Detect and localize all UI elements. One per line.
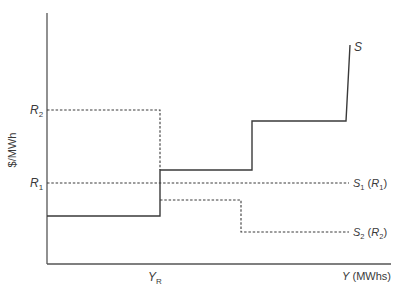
s1-r1-label: S1 (R1) — [353, 177, 387, 192]
r2-dashed-line — [47, 110, 160, 170]
s-curve-label: S — [354, 40, 362, 54]
s2-r2-label: S2 (R2) — [353, 226, 387, 241]
axes — [47, 13, 391, 264]
x-axis-label: Y (MWhs) — [342, 270, 391, 282]
supply-curve-diagram: $/MWh R2 R1 YR Y (MWhs) S S1 (R1) S2 (R2… — [0, 0, 401, 299]
y-axis-label: $/MWh — [6, 133, 18, 168]
s2-r2-dashed-line — [160, 200, 349, 232]
r1-tick-label: R1 — [30, 176, 44, 192]
r2-tick-label: R2 — [30, 103, 44, 119]
yr-tick-label: YR — [148, 270, 162, 286]
supply-curve-s — [47, 45, 350, 216]
